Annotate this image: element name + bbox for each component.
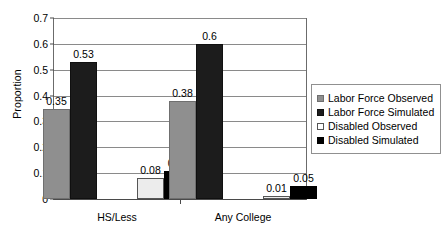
bar: [137, 178, 164, 199]
plot-area: 00.10.20.30.40.50.60.70.350.530.080.11HS…: [53, 18, 307, 200]
bar: [43, 109, 70, 200]
bar-value-label: 0.05: [293, 172, 313, 184]
bar-value-label: 0.35: [46, 95, 66, 107]
x-category-label: Any College: [215, 211, 272, 223]
legend-swatch-icon: [317, 95, 324, 102]
bar: [263, 196, 290, 199]
gridline: [54, 18, 306, 19]
gridline: [54, 44, 306, 45]
legend-item: Disabled Observed: [317, 119, 434, 133]
legend-swatch-icon: [317, 137, 324, 144]
bar: [169, 101, 196, 199]
legend-label: Labor Force Simulated: [328, 106, 434, 118]
y-tick-label: 0.5: [33, 64, 48, 76]
legend-label: Disabled Observed: [328, 120, 417, 132]
bar: [290, 186, 317, 199]
y-axis-title: Proportion: [11, 49, 23, 139]
legend-item: Disabled Simulated: [317, 133, 434, 147]
y-tick-mark: [50, 69, 54, 70]
legend-label: Labor Force Observed: [328, 92, 433, 104]
legend-swatch-icon: [317, 123, 324, 130]
legend-swatch-icon: [317, 109, 324, 116]
y-tick-label: 0.7: [33, 12, 48, 24]
bar-value-label: 0.6: [202, 30, 217, 42]
legend-item: Labor Force Observed: [317, 91, 434, 105]
bar: [70, 62, 97, 199]
y-tick-mark: [50, 43, 54, 44]
legend-item: Labor Force Simulated: [317, 105, 434, 119]
chart-legend: Labor Force ObservedLabor Force Simulate…: [311, 84, 441, 154]
bar-value-label: 0.08: [140, 164, 160, 176]
bar-value-label: 0.53: [73, 48, 93, 60]
x-category-label: HS/Less: [97, 211, 137, 223]
x-tick-mark: [180, 199, 181, 204]
bar-value-label: 0.01: [266, 182, 286, 194]
y-tick-label: 0.6: [33, 38, 48, 50]
bar-value-label: 0.38: [172, 87, 192, 99]
y-tick-mark: [50, 18, 54, 19]
bar: [196, 44, 223, 199]
legend-label: Disabled Simulated: [328, 134, 418, 146]
